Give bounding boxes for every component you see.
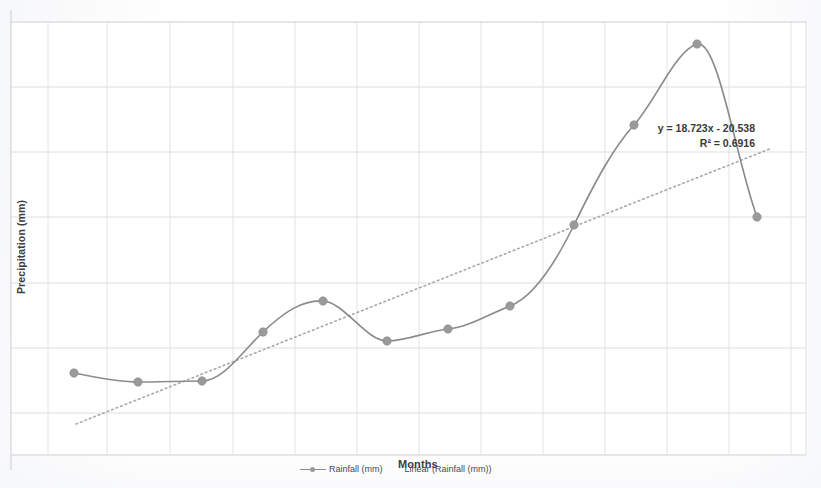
chart-legend: Rainfall (mm) Linear (Rainfall (mm)) [300,464,492,474]
trendline-r-squared-text: R² = 0.6916 [600,136,755,151]
chart-page: Precipitation (mm) Months y = 18.723x - … [0,0,821,488]
data-point-6 [383,337,391,345]
legend-label-rainfall: Rainfall (mm) [329,464,383,474]
trendline-equation-annotation: y = 18.723x - 20.538 R² = 0.6916 [600,121,755,151]
data-point-5 [319,297,327,305]
data-point-4 [259,328,267,336]
data-point-9 [570,221,578,229]
plot-area [11,21,806,456]
data-point-1 [70,369,78,377]
line-marker-swatch-icon [300,466,326,473]
legend-label-linear-trendline: Linear (Rainfall (mm)) [405,464,492,474]
data-point-12 [753,213,761,221]
data-point-7 [444,325,452,333]
y-axis-title: Precipitation (mm) [15,177,27,317]
trendline-equation-text: y = 18.723x - 20.538 [600,121,755,136]
data-point-2 [134,378,142,386]
legend-item-rainfall[interactable]: Rainfall (mm) [300,464,383,474]
precipitation-line-chart [0,0,821,488]
data-point-8 [506,302,514,310]
data-point-11 [693,40,701,48]
legend-item-linear-trendline[interactable]: Linear (Rainfall (mm)) [405,464,492,474]
data-point-3 [198,377,206,385]
